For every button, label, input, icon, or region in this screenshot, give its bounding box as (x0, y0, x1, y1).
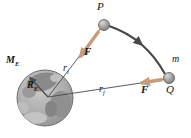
earth-mass-symbol: M (6, 54, 15, 65)
particle-mass-label: m (172, 54, 179, 64)
physics-figure-gravitation: P m Q F F ri rf ME RE (0, 0, 191, 138)
trajectory-curve-first-half (109, 26, 141, 44)
earth-radius-subscript: E (34, 85, 38, 92)
earth-radius-symbol: R (27, 79, 34, 90)
trajectory-curve-second-half (141, 44, 165, 74)
force-at-p-label: F (84, 46, 91, 57)
point-q-label: Q (166, 84, 174, 95)
final-radius-label: rf (99, 84, 105, 94)
force-at-q-label: F (141, 84, 148, 95)
final-radius-subscript: f (103, 89, 105, 96)
particle-at-q (164, 73, 175, 84)
earth-sphere (15, 69, 73, 126)
point-p-label: P (97, 1, 104, 12)
earth-radius-label: RE (27, 80, 38, 90)
initial-radius-subscript: i (67, 68, 69, 75)
diagram-canvas (0, 0, 191, 138)
initial-radius-label: ri (63, 63, 69, 73)
earth-mass-label: ME (6, 55, 19, 65)
particle-at-p (99, 20, 110, 31)
earth-mass-subscript: E (15, 60, 19, 67)
